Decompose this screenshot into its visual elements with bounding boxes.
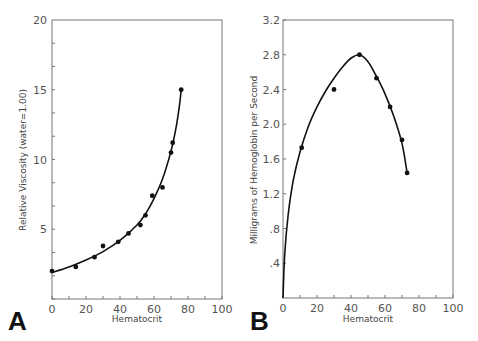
panel-a-fit-curve <box>52 90 181 273</box>
panel-b-y-axis: .4.81.21.62.02.42.83.2 <box>263 14 287 270</box>
data-point <box>116 239 121 244</box>
data-point <box>400 137 405 142</box>
y-tick-label: 10 <box>33 154 47 167</box>
panel-a-letter: A <box>8 306 27 336</box>
data-point <box>388 104 393 109</box>
data-point <box>357 52 362 57</box>
data-point <box>332 87 337 92</box>
x-tick-label: 20 <box>310 302 324 315</box>
panel-b-y-axis-title: Milligrams of Hemoglobin per Second <box>249 76 259 245</box>
panel-a-plot-frame <box>52 20 222 299</box>
x-tick-label: 80 <box>412 302 426 315</box>
data-point <box>150 193 155 198</box>
panel-b-chart: 020406080100 .4.81.21.62.02.42.83.2 Hema… <box>249 14 464 336</box>
panel-a-x-axis-title: Hematocrit <box>112 314 163 324</box>
y-tick-label: 2.0 <box>263 118 281 131</box>
y-tick-label: 3.2 <box>263 14 281 27</box>
y-tick-label: 20 <box>33 14 47 27</box>
data-point <box>299 145 304 150</box>
figure: 020406080100 5101520 Hematocrit Relative… <box>0 0 478 341</box>
data-point <box>101 244 106 249</box>
data-point <box>138 223 143 228</box>
x-tick-label: 0 <box>280 302 287 315</box>
y-tick-label: 5 <box>40 223 47 236</box>
panel-b-fit-curve <box>283 55 407 298</box>
y-tick-label: 2.4 <box>263 84 281 97</box>
panel-a-chart: 020406080100 5101520 Hematocrit Relative… <box>8 14 233 336</box>
data-point <box>160 185 165 190</box>
x-tick-label: 100 <box>443 302 464 315</box>
x-tick-label: 0 <box>49 303 56 316</box>
x-tick-label: 80 <box>181 303 195 316</box>
data-point <box>73 265 78 270</box>
data-point <box>374 76 379 81</box>
y-tick-label: 15 <box>33 84 47 97</box>
panel-b-x-axis-title: Hematocrit <box>343 314 394 324</box>
x-tick-label: 20 <box>79 303 93 316</box>
y-tick-label: 2.8 <box>263 49 281 62</box>
x-tick-label: 100 <box>212 303 233 316</box>
data-point <box>170 140 175 145</box>
data-point <box>92 255 97 260</box>
panel-b-letter: B <box>250 306 269 336</box>
data-point <box>126 231 131 236</box>
panel-a-data-points <box>50 87 184 273</box>
y-tick-label: .4 <box>270 257 281 270</box>
data-point <box>405 171 410 176</box>
y-tick-label: .8 <box>270 223 281 236</box>
data-point <box>179 87 184 92</box>
data-point <box>169 150 174 155</box>
data-point <box>143 213 148 218</box>
panel-a-y-axis-title: Relative Viscosity (water=1.00) <box>18 89 28 231</box>
y-tick-label: 1.6 <box>263 153 281 166</box>
y-tick-label: 1.2 <box>263 188 281 201</box>
data-point <box>50 269 55 274</box>
